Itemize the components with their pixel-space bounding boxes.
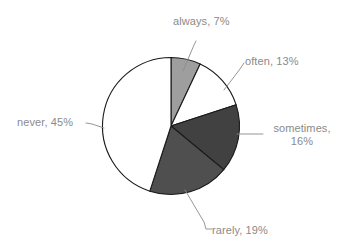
leader-line-rarely bbox=[185, 190, 212, 229]
pie-label-sometimes-line2: 16% bbox=[291, 135, 313, 147]
pie-label-often: often, 13% bbox=[245, 55, 299, 68]
pie-chart-figure: always, 7% often, 13% sometimes, 16% rar… bbox=[0, 0, 347, 247]
pie-label-never: never, 45% bbox=[17, 116, 73, 129]
pie-label-sometimes: sometimes, 16% bbox=[266, 122, 338, 148]
pie-label-sometimes-line1: sometimes, bbox=[273, 122, 330, 134]
leader-line-often bbox=[224, 63, 244, 90]
pie-label-always: always, 7% bbox=[173, 15, 230, 28]
pie-label-rarely: rarely, 19% bbox=[212, 224, 268, 237]
leader-line-never bbox=[86, 123, 104, 128]
